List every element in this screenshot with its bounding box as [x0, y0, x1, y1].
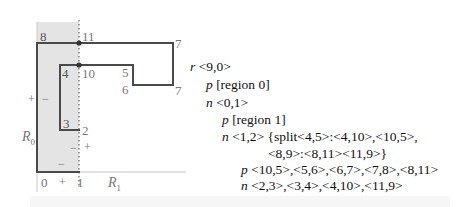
tree-line-p-region1: p [region 1] — [222, 113, 286, 127]
tree-text: <10,5>,<5,6>,<6,7>,<7,8>,<8,11> — [248, 162, 438, 177]
tree-text: <2,3>,<3,4>,<4,10>,<11,9> — [248, 178, 403, 193]
page-shadow-band — [30, 196, 450, 207]
tree-line-n-0-1: n <0,1> — [206, 96, 248, 110]
tree-text: <8,9>:<8,11><11,9>} — [268, 146, 387, 161]
tree-line-split-cont: <8,9>:<8,11><11,9>} — [268, 147, 387, 161]
tree-keyword: p — [241, 162, 248, 177]
bsp-tree-listing: r <9,0> p [region 0] n <0,1> p [region 1… — [0, 0, 465, 207]
tree-text: <0,1> — [213, 95, 248, 110]
tree-text: [region 0] — [213, 77, 270, 92]
tree-text: <9,0> — [195, 59, 230, 74]
tree-keyword: n — [241, 178, 248, 193]
tree-keyword: p — [206, 77, 213, 92]
tree-keyword: n — [222, 129, 229, 144]
tree-line-p-region0: p [region 0] — [206, 78, 270, 92]
tree-line-root: r <9,0> — [190, 60, 231, 74]
tree-line-n-1-2-split: n <1,2> {split<4,5>:<4,10>,<10,5>, — [222, 130, 418, 144]
tree-line-p-edges: p <10,5>,<5,6>,<6,7>,<7,8>,<8,11> — [241, 163, 438, 177]
tree-text: [region 1] — [229, 112, 286, 127]
tree-line-n-edges: n <2,3>,<3,4>,<4,10>,<11,9> — [241, 179, 403, 193]
tree-text: <1,2> {split<4,5>:<4,10>,<10,5>, — [229, 129, 418, 144]
tree-keyword: n — [206, 95, 213, 110]
tree-keyword: p — [222, 112, 229, 127]
